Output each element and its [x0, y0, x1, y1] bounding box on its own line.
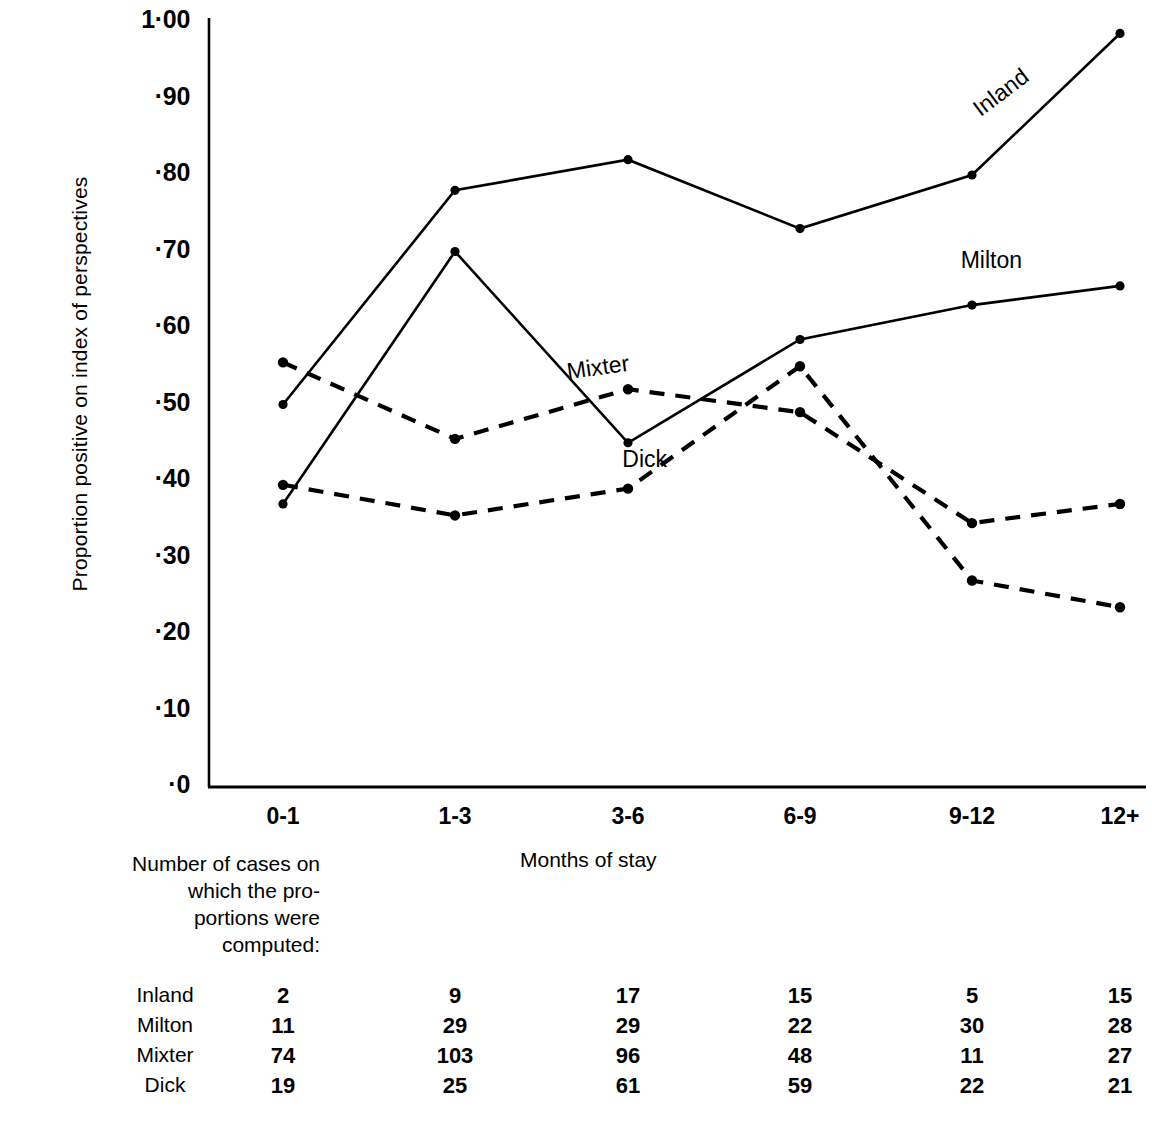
data-point-mixter	[1115, 499, 1125, 509]
data-point-milton	[450, 247, 459, 256]
caption-line: Number of cases on	[10, 850, 320, 877]
table-cell: 25	[395, 1073, 515, 1099]
table-cell: 30	[912, 1013, 1032, 1039]
data-point-dick	[1115, 602, 1125, 612]
table-cell: 2	[223, 983, 343, 1009]
data-point-mixter	[623, 384, 633, 394]
table-cell: 29	[568, 1013, 688, 1039]
table-cell: 48	[740, 1043, 860, 1069]
table-cell: 9	[395, 983, 515, 1009]
table-cell: 74	[223, 1043, 343, 1069]
series-line-milton	[283, 252, 1120, 504]
data-point-dick	[795, 361, 805, 371]
data-point-inland	[450, 186, 459, 195]
series-line-dick	[283, 366, 1120, 607]
data-point-milton	[967, 300, 976, 309]
table-cell: 27	[1060, 1043, 1152, 1069]
series-label-milton: Milton	[961, 247, 1022, 274]
table-cell: 17	[568, 983, 688, 1009]
data-point-inland	[623, 155, 632, 164]
caption-line: computed:	[10, 931, 320, 958]
data-point-mixter	[795, 407, 805, 417]
data-point-inland	[795, 224, 804, 233]
data-point-dick	[967, 575, 977, 585]
table-cell: 11	[912, 1043, 1032, 1069]
data-point-milton	[1115, 281, 1124, 290]
series-label-dick: Dick	[622, 446, 667, 473]
table-cell: 21	[1060, 1073, 1152, 1099]
table-cell: 29	[395, 1013, 515, 1039]
data-point-mixter	[450, 434, 460, 444]
table-cell: 15	[740, 983, 860, 1009]
table-cell: 96	[568, 1043, 688, 1069]
table-cell: 61	[568, 1073, 688, 1099]
data-point-milton	[795, 335, 804, 344]
data-point-mixter	[967, 518, 977, 528]
table-cell: 22	[740, 1013, 860, 1039]
data-point-dick	[278, 480, 288, 490]
data-point-inland	[967, 170, 976, 179]
table-cell: 19	[223, 1073, 343, 1099]
figure-root: Proportion positive on index of perspect…	[0, 0, 1152, 1124]
caption-line: which the pro-	[10, 877, 320, 904]
table-cell: 22	[912, 1073, 1032, 1099]
x-axis-title: Months of stay	[520, 848, 657, 872]
data-point-milton	[278, 499, 287, 508]
caption-line: portions were	[10, 904, 320, 931]
table-cell: 15	[1060, 983, 1152, 1009]
data-point-inland	[1115, 29, 1124, 38]
data-point-mixter	[278, 357, 288, 367]
series-line-mixter	[283, 362, 1120, 523]
data-point-inland	[278, 400, 287, 409]
table-cell: 5	[912, 983, 1032, 1009]
table-cell: 28	[1060, 1013, 1152, 1039]
data-point-dick	[623, 483, 633, 493]
table-caption: Number of cases onwhich the pro-portions…	[10, 850, 320, 958]
table-cell: 59	[740, 1073, 860, 1099]
data-point-dick	[450, 510, 460, 520]
table-cell: 103	[395, 1043, 515, 1069]
table-cell: 11	[223, 1013, 343, 1039]
